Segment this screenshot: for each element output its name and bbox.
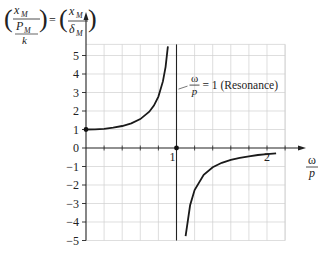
annotation-text: = 1 (Resonance) xyxy=(203,79,279,92)
y-tick-label: −4 xyxy=(66,215,79,229)
ylabel-equals: = xyxy=(49,13,56,27)
ylabel-rhs-num: x xyxy=(68,4,75,18)
ylabel-lhs-num-sub: M xyxy=(20,10,29,19)
x-tick-label: 1 xyxy=(170,150,176,164)
annotation-leader-line xyxy=(179,86,188,89)
y-tick-label: 1 xyxy=(73,123,79,137)
y-axis-label: ( x M P M k ) = ( x M δ M ) xyxy=(4,3,97,46)
y-tick-label: −1 xyxy=(66,160,79,174)
resonance-annotation: ω p = 1 (Resonance) xyxy=(179,72,279,97)
annotation-num: ω xyxy=(191,72,198,84)
y-tick-label: 2 xyxy=(73,104,79,118)
ylabel-lhs-den: k xyxy=(22,34,28,46)
start-point xyxy=(84,127,89,132)
y-tick-label: 4 xyxy=(73,67,79,81)
right-paren-open: ( xyxy=(59,4,68,33)
resonance-point xyxy=(174,146,179,151)
chart: 12543210−1−2−3−4−5 ( x M P M k ) = ( x M… xyxy=(0,0,329,256)
y-tick-label: 3 xyxy=(73,86,79,100)
y-tick-label: −5 xyxy=(66,234,79,248)
left-paren-close: ) xyxy=(39,4,48,33)
x-tick-label: 2 xyxy=(264,150,270,164)
x-axis-label: ω p xyxy=(306,153,318,180)
points xyxy=(84,127,179,150)
grid xyxy=(86,44,285,240)
y-tick-label: −2 xyxy=(66,178,79,192)
y-tick-label: 5 xyxy=(73,49,79,63)
series xyxy=(86,46,276,236)
y-tick-label: −3 xyxy=(66,197,79,211)
ylabel-lhs-mid: P xyxy=(15,19,24,33)
ylabel-lhs-num: x xyxy=(13,3,20,17)
xlabel-den: p xyxy=(308,166,315,180)
series-line-below-resonance xyxy=(86,46,168,129)
x-axis-arrow-icon xyxy=(298,146,306,151)
left-paren-open: ( xyxy=(4,4,13,33)
right-paren-close: ) xyxy=(88,4,97,33)
annotation-den: p xyxy=(191,85,198,97)
ylabel-rhs-num-sub: M xyxy=(75,11,84,20)
ylabel-rhs-den: δ xyxy=(69,22,75,36)
y-tick-label: 0 xyxy=(73,141,79,155)
xlabel-num: ω xyxy=(308,153,316,167)
ylabel-rhs-den-sub: M xyxy=(75,29,84,38)
